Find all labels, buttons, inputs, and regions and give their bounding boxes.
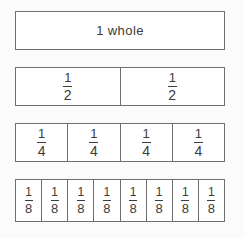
denominator: 8 (77, 202, 84, 215)
numerator: 1 (38, 128, 45, 141)
fraction-cell-eighth: 1 8 (120, 180, 146, 221)
denominator: 4 (142, 144, 150, 158)
denominator: 8 (51, 202, 58, 215)
fraction-cell-eighth: 1 8 (146, 180, 172, 221)
numerator: 1 (77, 187, 84, 199)
fraction-cell-fourth: 1 4 (67, 124, 119, 161)
fraction-cell-fourth: 1 4 (120, 124, 172, 161)
denominator: 8 (25, 202, 32, 215)
fraction-one-eighth: 1 8 (25, 187, 33, 215)
fraction-one-half: 1 2 (63, 72, 72, 102)
whole-label: 1 whole (96, 23, 144, 38)
fraction-cell-half: 1 2 (16, 68, 120, 105)
denominator: 8 (156, 202, 163, 215)
fraction-cell-eighth: 1 8 (172, 180, 198, 221)
fraction-cell-eighth: 1 8 (67, 180, 93, 221)
numerator: 1 (143, 128, 150, 141)
numerator: 1 (182, 187, 189, 199)
denominator: 8 (182, 202, 189, 215)
fraction-bar-eighths: 1 8 1 8 1 8 1 8 (15, 179, 225, 222)
fraction-wall-diagram: 1 whole 1 2 1 2 1 4 (0, 0, 244, 238)
fraction-cell-half: 1 2 (120, 68, 225, 105)
fraction-bar-fourths: 1 4 1 4 1 4 1 4 (15, 123, 225, 162)
fraction-one-fourth: 1 4 (89, 128, 98, 158)
numerator: 1 (208, 187, 215, 199)
fraction-bar-halves: 1 2 1 2 (15, 67, 225, 106)
fraction-bar-whole: 1 whole (15, 11, 225, 50)
denominator: 4 (38, 144, 46, 158)
fraction-cell-whole: 1 whole (16, 12, 224, 49)
numerator: 1 (156, 187, 163, 199)
numerator: 1 (25, 187, 32, 199)
fraction-cell-eighth: 1 8 (16, 180, 41, 221)
fraction-cell-eighth: 1 8 (41, 180, 67, 221)
denominator: 2 (64, 88, 72, 102)
fraction-one-fourth: 1 4 (194, 128, 203, 158)
fraction-one-eighth: 1 8 (77, 187, 85, 215)
fraction-one-fourth: 1 4 (142, 128, 151, 158)
fraction-cell-fourth: 1 4 (172, 124, 224, 161)
numerator: 1 (130, 187, 137, 199)
fraction-one-fourth: 1 4 (37, 128, 46, 158)
fraction-cell-fourth: 1 4 (16, 124, 67, 161)
numerator: 1 (51, 187, 58, 199)
fraction-one-half: 1 2 (168, 72, 177, 102)
numerator: 1 (195, 128, 202, 141)
denominator: 4 (194, 144, 202, 158)
fraction-cell-eighth: 1 8 (198, 180, 224, 221)
fraction-cell-eighth: 1 8 (93, 180, 119, 221)
numerator: 1 (64, 72, 71, 85)
denominator: 8 (208, 202, 215, 215)
fraction-one-eighth: 1 8 (129, 187, 137, 215)
fraction-one-eighth: 1 8 (207, 187, 215, 215)
denominator: 4 (90, 144, 98, 158)
fraction-one-eighth: 1 8 (155, 187, 163, 215)
denominator: 8 (129, 202, 136, 215)
denominator: 2 (168, 88, 176, 102)
fraction-one-eighth: 1 8 (51, 187, 59, 215)
numerator: 1 (104, 187, 111, 199)
denominator: 8 (103, 202, 110, 215)
numerator: 1 (90, 128, 97, 141)
fraction-one-eighth: 1 8 (103, 187, 111, 215)
fraction-one-eighth: 1 8 (181, 187, 189, 215)
numerator: 1 (169, 72, 176, 85)
